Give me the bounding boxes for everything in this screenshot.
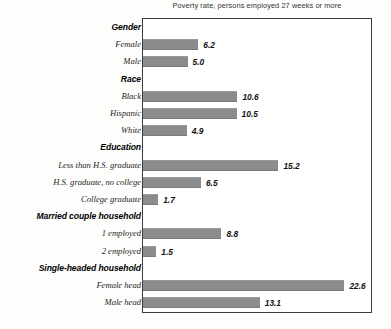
bar-value-label: 1.7 (163, 194, 175, 206)
group-heading-row-gender: Gender (0, 21, 391, 38)
bar-row-1-employed: 1 employed8.8 (0, 227, 391, 244)
bar (143, 297, 260, 308)
bar-row-2-employed: 2 employed1.5 (0, 245, 391, 262)
bar-row-label: H.S. graduate, no college (8, 176, 141, 189)
bar-row-black: Black10.6 (0, 90, 391, 107)
bar-value-label: 1.5 (161, 246, 173, 258)
bar-row-less-than-h-s-graduate: Less than H.S. graduate15.2 (0, 159, 391, 176)
bar-row-college-graduate: College graduate1.7 (0, 193, 391, 210)
bar-value-label: 10.5 (242, 108, 258, 120)
group-heading-label: Education (8, 141, 141, 154)
bar-chart-figure: Poverty rate, persons employed 27 weeks … (0, 0, 391, 329)
bar-row-label: Less than H.S. graduate (8, 159, 141, 172)
bar (143, 160, 278, 171)
bar-row-label: Female (8, 38, 141, 51)
group-heading-label: Race (8, 73, 141, 86)
bar-row-label: Male head (8, 296, 141, 309)
bar-value-label: 22.6 (349, 280, 365, 292)
group-heading-row-race: Race (0, 73, 391, 90)
group-heading-row-married-couple-household: Married couple household (0, 210, 391, 227)
bar-row-hispanic: Hispanic10.5 (0, 107, 391, 124)
bar-row-white: White4.9 (0, 124, 391, 141)
bar-value-label: 6.2 (203, 39, 215, 51)
group-heading-label: Married couple household (8, 210, 141, 223)
group-heading-label: Gender (8, 21, 141, 34)
bar-row-label: Hispanic (8, 107, 141, 120)
bar-value-label: 15.2 (283, 160, 299, 172)
bar (143, 125, 187, 136)
group-heading-label: Single-headed household (8, 262, 141, 275)
bar-row-male-head: Male head13.1 (0, 296, 391, 313)
bar (143, 56, 188, 67)
bar-value-label: 6.5 (206, 177, 218, 189)
bar-value-label: 13.1 (265, 297, 281, 309)
bar (143, 194, 158, 205)
bar-row-female-head: Female head22.6 (0, 279, 391, 296)
bar (143, 228, 221, 239)
bar-row-female: Female6.2 (0, 38, 391, 55)
bar-row-label: College graduate (8, 193, 141, 206)
bar-value-label: 4.9 (192, 125, 204, 137)
bar (143, 246, 156, 257)
bar-value-label: 8.8 (226, 228, 238, 240)
bar (143, 280, 344, 291)
bar-row-male: Male5.0 (0, 55, 391, 72)
bar (143, 39, 198, 50)
group-heading-row-single-headed-household: Single-headed household (0, 262, 391, 279)
bar (143, 108, 237, 119)
bar-row-label: Female head (8, 279, 141, 292)
bar-row-label: White (8, 124, 141, 137)
bar (143, 91, 237, 102)
bar-value-label: 10.6 (242, 91, 258, 103)
chart-title: Poverty rate, persons employed 27 weeks … (142, 1, 372, 10)
bar-row-label: Male (8, 55, 141, 68)
bar-row-label: 1 employed (8, 227, 141, 240)
group-heading-row-education: Education (0, 141, 391, 158)
bar (143, 177, 201, 188)
bar-value-label: 5.0 (193, 56, 205, 68)
bar-row-label: Black (8, 90, 141, 103)
bar-row-label: 2 employed (8, 245, 141, 258)
bar-row-h-s-graduate-no-college: H.S. graduate, no college6.5 (0, 176, 391, 193)
